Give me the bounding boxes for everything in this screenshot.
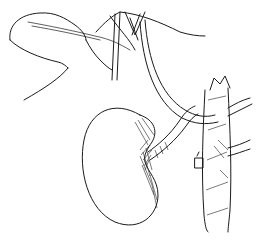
aorta-trunk [202, 76, 252, 232]
liver-lobe-outline [10, 12, 205, 100]
renal-vessel [148, 106, 198, 160]
vessel-branches [110, 12, 218, 124]
anatomy-drawing [0, 0, 262, 251]
illustration-canvas [0, 0, 262, 251]
kidney [82, 108, 158, 225]
ligated-vessel-stub [195, 152, 203, 168]
